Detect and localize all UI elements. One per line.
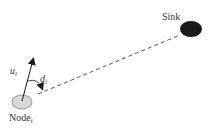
angle-label: di <box>40 73 47 86</box>
sensor-node <box>12 95 32 109</box>
velocity-label: ui <box>10 65 17 78</box>
sink-label: Sink <box>162 11 180 22</box>
node-label: Nodei <box>9 112 33 125</box>
sink-node <box>180 21 202 37</box>
diagram-canvas: Sink Nodei ui di <box>0 0 213 134</box>
node-sink-link <box>38 35 180 94</box>
